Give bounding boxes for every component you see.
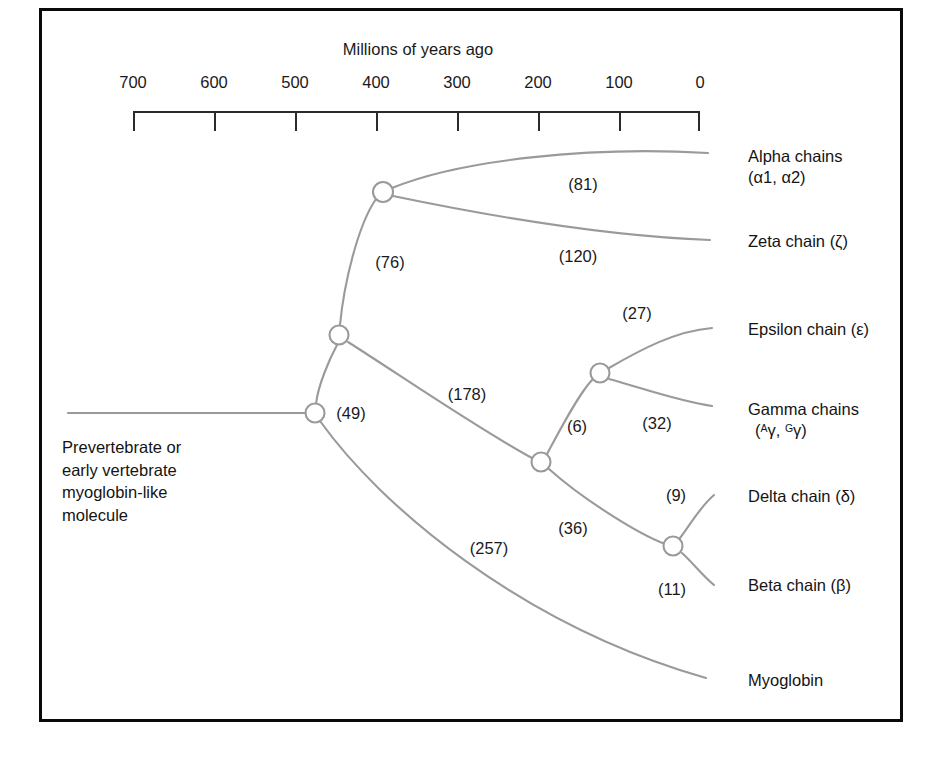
branch-label-delta-beta: (36): [558, 519, 587, 538]
branch-label-alpha: (81): [568, 175, 597, 194]
leaf-label-beta-line1: Beta chain (β): [748, 575, 851, 596]
leaf-label-alpha-line2: (α1, α2): [748, 167, 842, 188]
root-label-line-4: molecule: [62, 504, 181, 527]
leaf-label-beta: Beta chain (β): [748, 575, 851, 596]
branch-label-eps-gam: (6): [567, 417, 587, 436]
axis-tick-label-600: 600: [179, 73, 249, 92]
axis-tick-label-700: 700: [98, 73, 168, 92]
branch-label-delta: (9): [666, 486, 686, 505]
branch-label-myoglobin: (257): [470, 539, 509, 558]
leaf-label-epsilon: Epsilon chain (ε): [748, 319, 869, 340]
branch-label-beta: (11): [658, 580, 686, 599]
leaf-label-delta: Delta chain (δ): [748, 486, 855, 507]
leaf-label-alpha: Alpha chains (α1, α2): [748, 146, 842, 188]
axis-tick-label-300: 300: [422, 73, 492, 92]
axis-tick-label-0: 0: [665, 73, 735, 92]
root-label-line-1: Prevertebrate or: [62, 436, 181, 459]
branch-label-alpha-zeta: (76): [375, 253, 404, 272]
leaf-label-gamma-line2: (Aγ, Gγ): [748, 420, 859, 441]
leaf-label-epsilon-line1: Epsilon chain (ε): [748, 319, 869, 340]
leaf-label-gamma-line1: Gamma chains: [748, 399, 859, 420]
axis-tick-label-100: 100: [584, 73, 654, 92]
axis-title: Millions of years ago: [233, 40, 603, 59]
root-label-line-3: myoglobin-like: [62, 481, 181, 504]
leaf-label-gamma: Gamma chains (Aγ, Gγ): [748, 399, 859, 441]
figure-root: Millions of years ago 700 600 500 400 30…: [0, 0, 925, 784]
leaf-label-delta-line1: Delta chain (δ): [748, 486, 855, 507]
axis-tick-label-200: 200: [503, 73, 573, 92]
branch-label-gamma: (32): [642, 414, 671, 433]
branch-label-beta-group: (178): [448, 385, 487, 404]
leaf-label-myoglobin: Myoglobin: [748, 670, 823, 691]
axis-tick-label-400: 400: [341, 73, 411, 92]
root-label-line-2: early vertebrate: [62, 459, 181, 482]
leaf-label-zeta-line1: Zeta chain (ζ): [748, 231, 848, 252]
root-label: Prevertebrate or early vertebrate myoglo…: [62, 436, 181, 526]
axis-tick-label-500: 500: [260, 73, 330, 92]
branch-label-root-split: (49): [336, 404, 365, 423]
branch-label-zeta: (120): [559, 247, 598, 266]
branch-label-epsilon: (27): [622, 304, 651, 323]
leaf-label-zeta: Zeta chain (ζ): [748, 231, 848, 252]
figure-border: [39, 8, 903, 722]
leaf-label-myoglobin-line1: Myoglobin: [748, 670, 823, 691]
leaf-label-alpha-line1: Alpha chains: [748, 146, 842, 167]
